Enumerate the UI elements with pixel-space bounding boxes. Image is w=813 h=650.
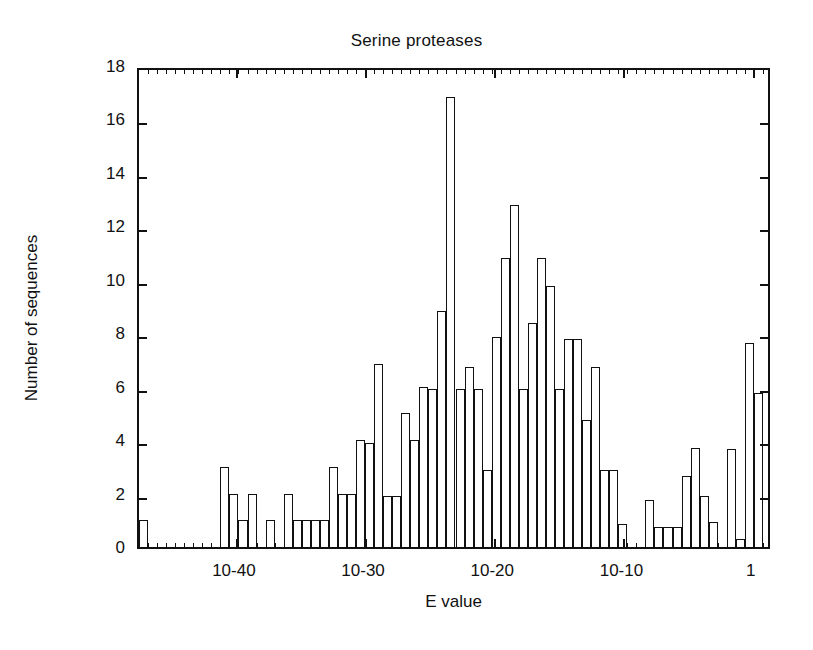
x-minor-tick	[175, 69, 176, 74]
x-minor-tick	[419, 69, 420, 74]
histogram-bar	[528, 323, 537, 547]
y-tick-mark	[138, 337, 147, 339]
histogram-bar	[582, 420, 591, 547]
histogram-bar	[401, 413, 410, 547]
x-minor-tick	[573, 69, 574, 74]
x-minor-tick	[474, 69, 475, 74]
histogram-bar	[465, 367, 474, 547]
x-minor-tick	[736, 69, 737, 74]
x-minor-tick	[356, 543, 357, 548]
histogram-bar	[745, 343, 754, 547]
x-minor-tick	[501, 543, 502, 548]
x-tick-mark	[753, 69, 755, 78]
x-minor-tick	[347, 69, 348, 74]
histogram-bar	[700, 496, 709, 547]
y-tick-label: 8	[65, 324, 125, 344]
x-minor-tick	[437, 543, 438, 548]
histogram-bar	[302, 520, 311, 547]
x-minor-tick	[193, 543, 194, 548]
x-minor-tick	[238, 543, 239, 548]
x-minor-tick	[419, 543, 420, 548]
histogram-bar	[383, 496, 392, 547]
x-minor-tick	[401, 543, 402, 548]
histogram-bar	[501, 258, 510, 547]
y-tick-mark	[760, 230, 769, 232]
x-minor-tick	[582, 69, 583, 74]
x-minor-tick	[492, 543, 493, 548]
x-minor-tick	[275, 543, 276, 548]
x-minor-tick	[166, 69, 167, 74]
x-minor-tick	[266, 543, 267, 548]
x-minor-tick	[627, 69, 628, 74]
x-tick-mark	[365, 69, 367, 78]
histogram-bar	[374, 364, 383, 547]
x-tick-mark	[365, 539, 367, 548]
x-minor-tick	[329, 69, 330, 74]
x-minor-tick	[229, 69, 230, 74]
y-tick-label: 14	[65, 164, 125, 184]
x-minor-tick	[202, 543, 203, 548]
histogram-bar	[483, 470, 492, 547]
y-tick-mark	[138, 177, 147, 179]
x-minor-tick	[374, 69, 375, 74]
x-minor-tick	[220, 543, 221, 548]
x-minor-tick	[510, 543, 511, 548]
histogram-bar	[392, 496, 401, 547]
y-tick-mark	[138, 284, 147, 286]
histogram-bar	[220, 467, 229, 547]
x-minor-tick	[428, 69, 429, 74]
x-minor-tick	[483, 69, 484, 74]
x-minor-tick	[456, 543, 457, 548]
x-minor-tick	[275, 69, 276, 74]
histogram-bar	[573, 339, 582, 547]
histogram-bar	[564, 339, 573, 547]
x-minor-tick	[600, 69, 601, 74]
x-minor-tick	[157, 69, 158, 74]
x-minor-tick	[591, 69, 592, 74]
histogram-bar	[474, 389, 483, 547]
x-minor-tick	[600, 543, 601, 548]
x-minor-tick	[519, 543, 520, 548]
x-minor-tick	[663, 69, 664, 74]
y-tick-label: 10	[65, 271, 125, 291]
histogram-bar	[754, 393, 763, 547]
x-tick-mark	[494, 69, 496, 78]
x-minor-tick	[591, 543, 592, 548]
x-axis-title: E value	[137, 592, 770, 612]
histogram-bar	[546, 286, 555, 547]
x-minor-tick	[266, 69, 267, 74]
x-tick-mark	[623, 539, 625, 548]
x-minor-tick	[302, 543, 303, 548]
x-minor-tick	[727, 543, 728, 548]
y-tick-mark	[760, 177, 769, 179]
y-tick-label: 4	[65, 431, 125, 451]
x-minor-tick	[555, 543, 556, 548]
x-minor-tick	[311, 69, 312, 74]
x-minor-tick	[157, 543, 158, 548]
x-minor-tick	[709, 69, 710, 74]
histogram-bar	[437, 311, 446, 547]
histogram-bar	[311, 520, 320, 547]
x-minor-tick	[474, 543, 475, 548]
histogram-bar	[266, 520, 275, 547]
x-tick-mark	[236, 69, 238, 78]
y-tick-mark	[760, 498, 769, 500]
x-minor-tick	[284, 69, 285, 74]
x-minor-tick	[329, 543, 330, 548]
histogram-bar	[510, 205, 519, 547]
x-tick-mark	[236, 539, 238, 548]
histogram-bar	[609, 470, 618, 547]
histogram-bar	[419, 387, 428, 547]
x-minor-tick	[410, 543, 411, 548]
histogram-bar	[663, 527, 672, 547]
y-tick-label: 2	[65, 485, 125, 505]
x-minor-tick	[627, 543, 628, 548]
histogram-bar	[709, 522, 718, 547]
histogram-bar	[365, 443, 374, 547]
histogram-bar	[347, 494, 356, 547]
y-tick-label: 16	[65, 110, 125, 130]
x-minor-tick	[392, 69, 393, 74]
x-minor-tick	[546, 69, 547, 74]
x-minor-tick	[718, 543, 719, 548]
histogram-bars	[139, 70, 768, 547]
